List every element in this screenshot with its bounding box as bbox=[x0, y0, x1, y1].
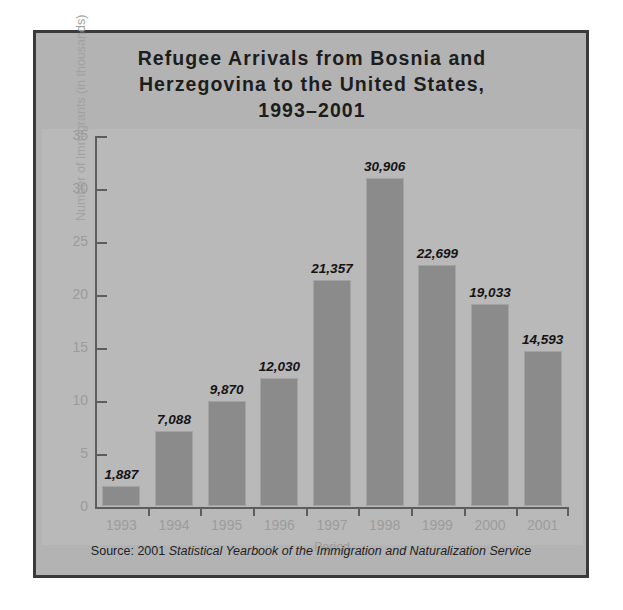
y-tick-label: 30 bbox=[48, 180, 88, 196]
bar-value-label: 9,870 bbox=[210, 382, 244, 397]
x-tick-label: 1997 bbox=[306, 517, 359, 533]
bar-value-label: 12,030 bbox=[259, 359, 300, 374]
x-tick bbox=[358, 507, 360, 516]
source-prefix: Source: 2001 bbox=[91, 544, 169, 558]
x-tick bbox=[464, 507, 466, 516]
title-line-3: 1993–2001 bbox=[62, 97, 562, 123]
x-tick-label: 1994 bbox=[148, 517, 201, 533]
x-tick-label: 2000 bbox=[464, 517, 517, 533]
y-tick-label: 25 bbox=[48, 233, 88, 249]
x-tick bbox=[411, 507, 413, 516]
bar: 9,870 bbox=[208, 401, 246, 506]
x-tick-label: 1993 bbox=[95, 517, 148, 533]
figure-frame: Refugee Arrivals from Bosnia and Herzego… bbox=[33, 30, 589, 578]
bar-value-label: 14,593 bbox=[522, 332, 563, 347]
y-tick-label: 15 bbox=[48, 339, 88, 355]
x-tick bbox=[516, 507, 518, 516]
bar-value-label: 22,699 bbox=[417, 246, 458, 261]
x-tick-label: 2001 bbox=[516, 517, 569, 533]
y-tick: 25 bbox=[97, 242, 107, 244]
bar: 19,033 bbox=[471, 304, 509, 506]
y-tick: 10 bbox=[97, 401, 107, 403]
y-tick-label: 5 bbox=[48, 445, 88, 461]
y-tick: 30 bbox=[97, 189, 107, 191]
bar-value-label: 19,033 bbox=[469, 285, 510, 300]
bar-value-label: 30,906 bbox=[364, 159, 405, 174]
y-tick-label: 10 bbox=[48, 392, 88, 408]
bar-value-label: 7,088 bbox=[157, 412, 191, 427]
bar: 22,699 bbox=[418, 265, 456, 506]
bar: 12,030 bbox=[260, 378, 298, 506]
y-tick: 20 bbox=[97, 295, 107, 297]
y-tick-label: 20 bbox=[48, 286, 88, 302]
y-tick: 35 bbox=[97, 136, 107, 138]
chart-page: Refugee Arrivals from Bosnia and Herzego… bbox=[0, 0, 623, 610]
bar: 21,357 bbox=[313, 280, 351, 506]
title-line-2: Herzegovina to the United States, bbox=[62, 71, 562, 97]
y-tick: 15 bbox=[97, 348, 107, 350]
source-title: Statistical Yearbook of the Immigration … bbox=[169, 544, 531, 558]
x-tick bbox=[200, 507, 202, 516]
bar-value-label: 21,357 bbox=[311, 261, 352, 276]
bar: 30,906 bbox=[366, 178, 404, 506]
bar-value-label: 1,887 bbox=[104, 467, 138, 482]
source-note: Source: 2001 Statistical Yearbook of the… bbox=[36, 544, 586, 558]
y-tick-label: 35 bbox=[48, 127, 88, 143]
y-tick: 5 bbox=[97, 454, 107, 456]
x-tick-label: 1999 bbox=[411, 517, 464, 533]
x-tick bbox=[148, 507, 150, 516]
x-tick bbox=[306, 507, 308, 516]
bar: 14,593 bbox=[524, 351, 562, 506]
title-line-1: Refugee Arrivals from Bosnia and bbox=[62, 45, 562, 71]
page-title: Refugee Arrivals from Bosnia and Herzego… bbox=[62, 45, 562, 123]
y-tick: 0 bbox=[97, 507, 107, 509]
y-tick-label: 0 bbox=[48, 498, 88, 514]
plot-area: 05101520253035 1,8877,0889,87012,03021,3… bbox=[95, 136, 569, 508]
bar: 1,887 bbox=[102, 486, 140, 506]
bar: 7,088 bbox=[155, 431, 193, 506]
x-tick-label: 1995 bbox=[200, 517, 253, 533]
x-tick-label: 1996 bbox=[253, 517, 306, 533]
x-tick-label: 1998 bbox=[358, 517, 411, 533]
x-tick bbox=[567, 507, 569, 516]
x-axis-line bbox=[95, 507, 569, 509]
x-tick bbox=[253, 507, 255, 516]
